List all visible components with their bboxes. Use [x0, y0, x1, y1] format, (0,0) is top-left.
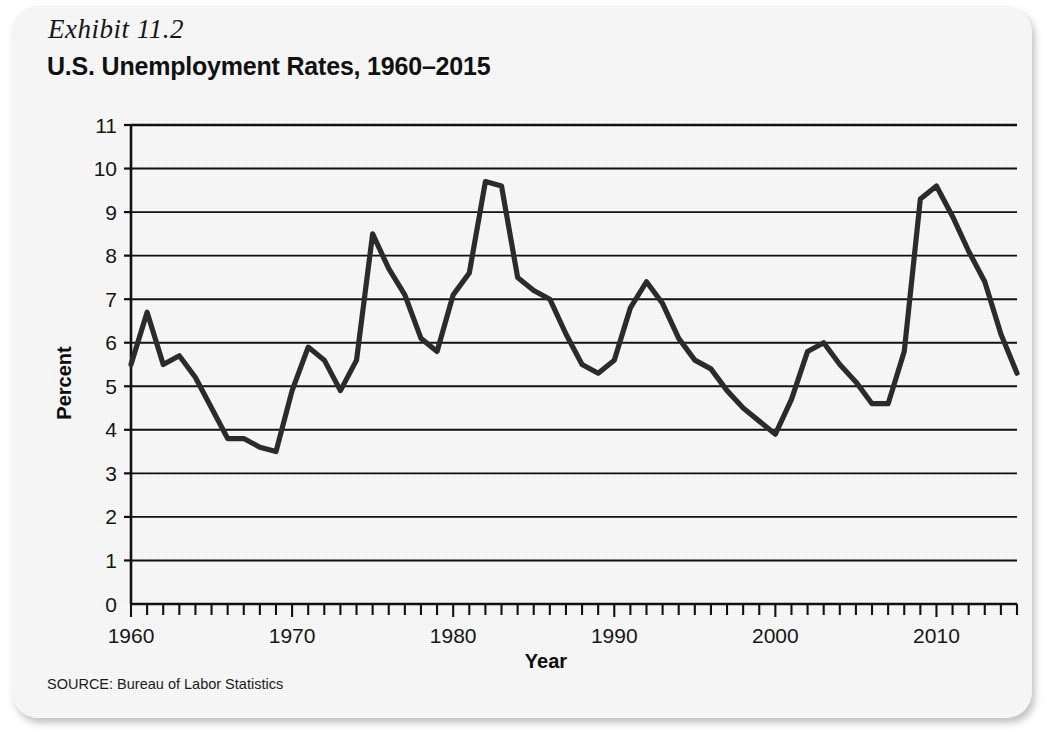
y-axis-title: Percent — [53, 346, 75, 420]
y-tick-label-4: 4 — [105, 418, 117, 441]
unemployment-line-chart: 01234567891011 196019701980199020002010 … — [0, 0, 1056, 743]
x-tick-label-1960: 1960 — [108, 624, 155, 647]
y-tick-label-5: 5 — [105, 375, 117, 398]
unemployment-rate-series-line — [131, 182, 1017, 452]
y-tick-label-1: 1 — [105, 549, 117, 572]
y-tick-label-11: 11 — [95, 114, 117, 137]
y-tick-label-10: 10 — [94, 157, 117, 180]
y-tick-label-6: 6 — [105, 331, 117, 354]
x-tick-label-1970: 1970 — [269, 624, 316, 647]
y-tick-label-9: 9 — [105, 201, 117, 224]
y-tick-label-2: 2 — [105, 505, 117, 528]
y-tick-label-8: 8 — [105, 244, 117, 267]
exhibit-page: Exhibit 11.2 U.S. Unemployment Rates, 19… — [0, 0, 1056, 743]
x-tick-label-2010: 2010 — [913, 624, 960, 647]
y-tick-label-0: 0 — [105, 593, 117, 616]
y-tick-label-3: 3 — [105, 462, 117, 485]
chart-plot-area: 01234567891011 196019701980199020002010 … — [0, 0, 1056, 743]
x-tick-label-1980: 1980 — [430, 624, 477, 647]
y-axis-tick-labels-group: 01234567891011 — [94, 114, 118, 616]
x-axis-ticks-group — [131, 604, 1017, 617]
x-tick-label-2000: 2000 — [752, 624, 799, 647]
y-tick-label-7: 7 — [105, 288, 117, 311]
axis-lines-group — [131, 125, 1017, 604]
x-axis-title: Year — [525, 650, 567, 672]
x-tick-label-1990: 1990 — [591, 624, 638, 647]
x-axis-tick-labels-group: 196019701980199020002010 — [108, 624, 960, 647]
source-note: SOURCE: Bureau of Labor Statistics — [47, 676, 283, 692]
